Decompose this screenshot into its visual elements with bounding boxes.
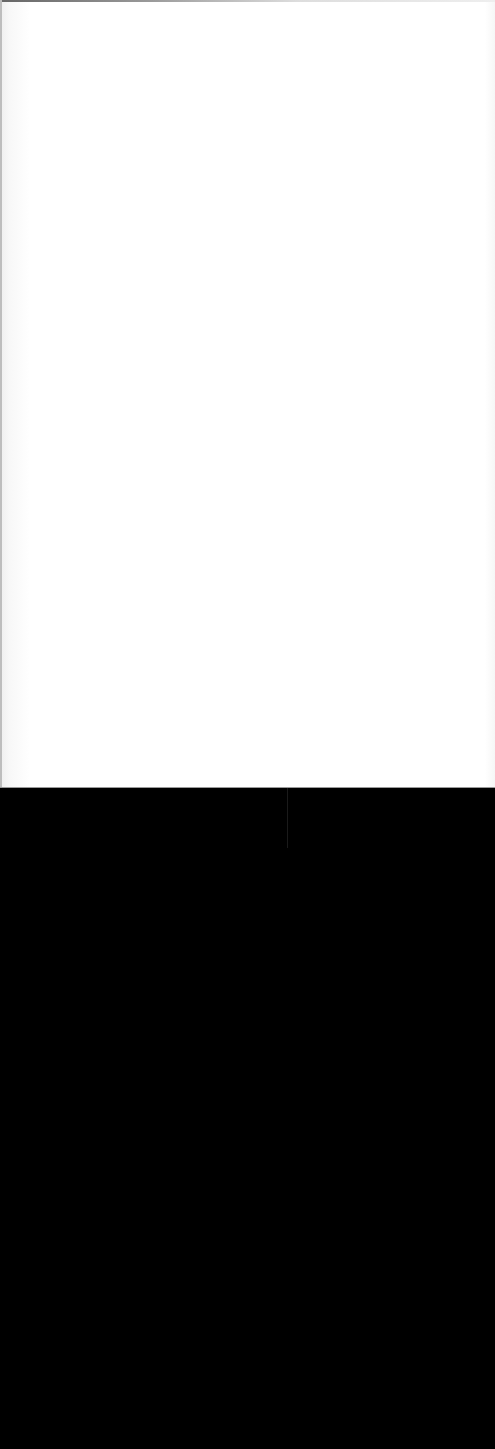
top-edge-shadow: [0, 0, 495, 2]
left-edge-border: [0, 0, 2, 787]
blank-white-panel: [0, 0, 495, 788]
faint-center-divider: [287, 788, 288, 848]
black-area: [0, 788, 495, 1449]
